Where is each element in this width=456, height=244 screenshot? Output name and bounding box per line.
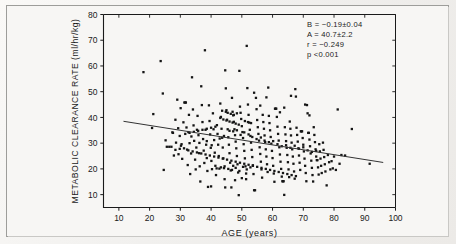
data-point	[210, 185, 212, 187]
data-point	[246, 45, 248, 47]
data-point	[222, 146, 224, 148]
data-point	[243, 143, 245, 145]
data-point	[258, 139, 260, 141]
data-point	[223, 165, 225, 167]
data-point	[173, 154, 175, 156]
data-point	[292, 163, 294, 165]
data-point	[293, 170, 295, 172]
data-point	[210, 160, 212, 162]
data-point	[206, 157, 208, 159]
data-point	[185, 101, 187, 103]
data-point	[224, 69, 226, 71]
data-point	[238, 170, 240, 172]
data-point	[284, 126, 286, 128]
data-point	[250, 122, 252, 124]
data-point	[215, 167, 217, 169]
data-point	[228, 120, 230, 122]
data-point	[278, 139, 280, 141]
data-point	[247, 164, 249, 166]
data-point	[318, 143, 320, 145]
data-point	[211, 144, 213, 146]
data-point	[164, 139, 166, 141]
data-point	[192, 108, 194, 110]
data-point	[255, 138, 257, 140]
data-point	[260, 167, 262, 169]
data-point	[260, 136, 262, 138]
data-point	[294, 145, 296, 147]
data-point	[230, 113, 232, 115]
data-point	[332, 167, 334, 169]
data-point	[230, 160, 232, 162]
data-point	[271, 157, 273, 159]
data-point	[191, 76, 193, 78]
data-point	[303, 157, 305, 159]
data-point	[265, 96, 267, 98]
data-point	[244, 120, 246, 122]
data-point	[333, 155, 335, 157]
data-point	[163, 169, 165, 171]
data-point	[328, 161, 330, 163]
data-point	[229, 162, 231, 164]
data-point	[219, 137, 221, 139]
data-point	[287, 161, 289, 163]
y-tick-label: 20	[88, 164, 98, 174]
annotation-pvalue: p <0.001	[307, 50, 339, 59]
data-point	[283, 194, 285, 196]
data-point	[227, 168, 229, 170]
data-point	[235, 122, 237, 124]
data-point	[219, 102, 221, 104]
data-point	[200, 85, 202, 87]
data-point	[311, 174, 313, 176]
data-point	[231, 97, 233, 99]
data-point	[244, 157, 246, 159]
data-point	[299, 169, 301, 171]
data-point	[275, 108, 277, 110]
data-point	[199, 165, 201, 167]
data-point	[257, 133, 259, 135]
data-point	[234, 134, 236, 136]
data-point	[206, 128, 208, 130]
data-point	[228, 130, 230, 132]
data-point	[294, 178, 296, 180]
data-point	[258, 146, 260, 148]
data-point	[261, 177, 263, 179]
annotation-correlation: r = −0.249	[307, 40, 344, 49]
data-point	[284, 133, 286, 135]
data-point	[298, 154, 300, 156]
data-point	[243, 150, 245, 152]
data-point	[296, 134, 298, 136]
data-point	[313, 134, 315, 136]
data-point	[211, 168, 213, 170]
data-point	[286, 173, 288, 175]
data-point	[238, 123, 240, 125]
y-tick-label: 10	[88, 190, 98, 200]
data-point	[209, 154, 211, 156]
data-point	[220, 166, 222, 168]
data-point	[321, 172, 323, 174]
data-point	[216, 133, 218, 135]
data-point	[297, 140, 299, 142]
data-point	[190, 135, 192, 137]
data-point	[166, 146, 168, 148]
data-point	[308, 114, 310, 116]
data-point	[281, 175, 283, 177]
data-point	[312, 180, 314, 182]
data-point	[210, 127, 212, 129]
data-point	[194, 158, 196, 160]
tick-labels-group: 1020304050607080102030405060708090100	[88, 10, 403, 223]
data-point	[318, 173, 320, 175]
data-point	[233, 114, 235, 116]
data-point	[228, 152, 230, 154]
data-point	[243, 131, 245, 133]
data-point	[224, 186, 226, 188]
data-point	[235, 147, 237, 149]
data-point	[220, 128, 222, 130]
data-point	[243, 163, 245, 165]
data-point	[290, 174, 292, 176]
data-point	[203, 162, 205, 164]
data-point	[269, 169, 271, 171]
data-point	[206, 170, 208, 172]
data-point	[225, 111, 227, 113]
data-point	[266, 171, 268, 173]
x-tick-label: 80	[329, 213, 339, 223]
